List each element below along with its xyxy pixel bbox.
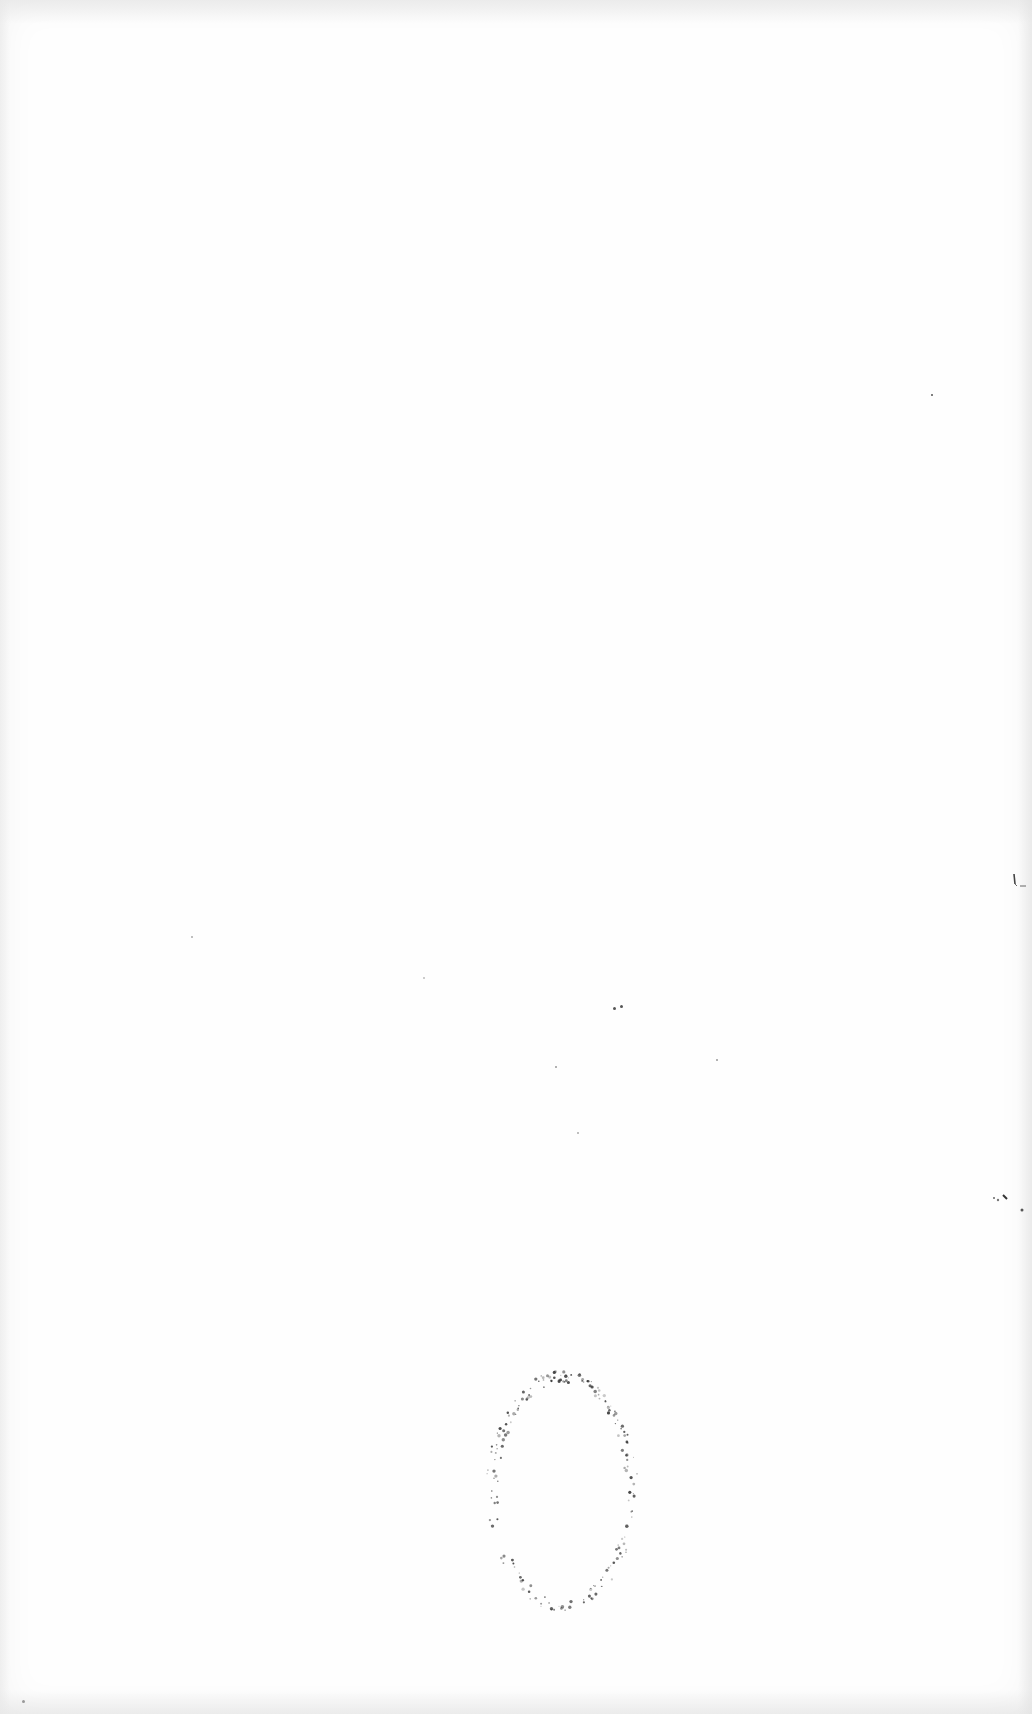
stamp-dot: [492, 1469, 495, 1472]
stamp-dot: [562, 1380, 564, 1382]
stamp-dot: [550, 1380, 552, 1382]
stamp-dot: [583, 1601, 585, 1603]
stamp-dot: [546, 1374, 549, 1377]
stamp-dot: [558, 1379, 561, 1382]
stamp-dot: [497, 1434, 500, 1437]
stamp-dot: [558, 1606, 559, 1607]
stamp-dot: [569, 1600, 572, 1603]
stamp-dot: [496, 1501, 499, 1504]
stamp-dot: [621, 1556, 622, 1557]
stamp-dot: [496, 1496, 498, 1498]
stamp-dot: [594, 1394, 597, 1397]
stamp-dot: [625, 1525, 629, 1529]
stamp-dot: [504, 1433, 508, 1437]
stamp-dot: [570, 1374, 572, 1376]
stamp-dot: [496, 1518, 498, 1520]
stamp-dot: [541, 1375, 542, 1376]
scan-speck: [22, 1700, 25, 1703]
stamp-dot: [591, 1381, 592, 1382]
stamp-dot: [494, 1474, 497, 1477]
stamp-dot: [540, 1606, 541, 1607]
stamp-dot: [527, 1396, 530, 1399]
stamp-dot: [588, 1595, 591, 1598]
stamp-dot: [610, 1405, 611, 1406]
stamp-dot: [613, 1561, 616, 1564]
stamp-dot: [512, 1563, 514, 1565]
stamp-dot: [519, 1576, 522, 1579]
stamp-dot: [619, 1552, 621, 1554]
stamp-dot: [521, 1397, 524, 1400]
stamp-dot: [631, 1510, 633, 1512]
stamp-dot: [616, 1557, 619, 1560]
margin-mark: [1010, 870, 1032, 894]
stamp-dot: [510, 1421, 512, 1423]
stamp-dot: [615, 1423, 616, 1424]
stamp-dot: [491, 1524, 494, 1527]
stamp-dot: [507, 1411, 509, 1413]
stamp-dot: [579, 1373, 581, 1375]
stamp-dot: [621, 1425, 624, 1428]
scan-speck: [577, 1132, 579, 1134]
stamp-dot: [594, 1585, 596, 1587]
stamp-dot: [564, 1374, 568, 1378]
stamp-dot: [589, 1588, 592, 1591]
stamp-dot: [593, 1585, 594, 1586]
scanned-page: [0, 0, 1032, 1714]
stamp-dot: [491, 1445, 493, 1447]
stamp-dot: [519, 1572, 520, 1573]
stamp-dot: [543, 1386, 545, 1388]
stamp-dot: [518, 1405, 519, 1406]
stamp-dot: [621, 1449, 624, 1452]
stamp-dot: [583, 1599, 584, 1600]
stamp-dot: [543, 1379, 545, 1381]
stamp-dot: [517, 1409, 519, 1411]
scan-edge-bottom: [0, 1690, 1032, 1714]
stamp-dot: [502, 1438, 505, 1441]
stamp-dot: [499, 1427, 502, 1430]
stamp-dot: [624, 1536, 625, 1537]
scan-speck: [423, 977, 425, 979]
stamp-dot: [568, 1377, 569, 1378]
scan-speck: [191, 936, 193, 938]
margin-mark: [990, 1190, 1032, 1220]
stamp-dot: [628, 1499, 630, 1501]
stamp-dot: [489, 1519, 491, 1521]
stamp-dot: [633, 1457, 634, 1458]
stamp-dot: [548, 1602, 550, 1604]
stamp-dot: [610, 1565, 611, 1566]
stamp-dot: [602, 1577, 603, 1578]
stamp-dot: [501, 1445, 504, 1448]
stamp-dot: [601, 1586, 602, 1587]
stamp-dot: [583, 1381, 585, 1383]
stamp-dot: [623, 1431, 625, 1433]
stamp-dot: [599, 1398, 601, 1400]
stamp-dot: [497, 1480, 498, 1481]
stamp-dot: [597, 1387, 599, 1389]
stamp-dot: [618, 1546, 621, 1549]
stamp-dot: [538, 1381, 540, 1383]
stamp-dot: [554, 1370, 557, 1373]
stamp-dot: [562, 1370, 565, 1373]
stamp-dot: [534, 1597, 537, 1600]
stamp-dot: [607, 1406, 608, 1407]
stamp-dot: [591, 1597, 594, 1600]
stamp-dot: [505, 1423, 507, 1425]
stamp-dot: [626, 1442, 628, 1444]
stamp-dot: [502, 1429, 505, 1432]
stamp-dot: [614, 1412, 617, 1415]
scan-edge-top: [0, 0, 1032, 24]
stamp-dot: [594, 1593, 597, 1596]
stamp-dot: [623, 1434, 626, 1437]
stamp-dot: [495, 1452, 497, 1454]
stamp-dot: [626, 1459, 628, 1461]
stamp-dot: [487, 1469, 489, 1471]
stamp-dot: [620, 1428, 622, 1430]
stamp-dot: [603, 1394, 606, 1397]
stamp-dot: [611, 1578, 613, 1580]
stamp-dot: [502, 1555, 505, 1558]
stamp-dot: [615, 1548, 618, 1551]
stamp-dot: [550, 1607, 553, 1610]
stamp-dot: [564, 1609, 566, 1611]
stamp-dot: [497, 1448, 498, 1449]
stamp-dot: [522, 1579, 524, 1581]
